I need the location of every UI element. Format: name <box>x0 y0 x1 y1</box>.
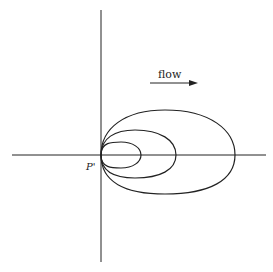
diagram-canvas: flow P' <box>0 0 273 272</box>
flow-label: flow <box>158 68 182 81</box>
point-label: P' <box>85 161 95 172</box>
large-loop <box>101 110 235 194</box>
medium-loop <box>101 130 176 178</box>
flow-arrow-icon <box>189 80 198 86</box>
